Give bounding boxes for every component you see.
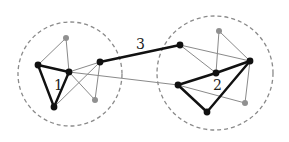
black-node: [66, 69, 73, 76]
strong-edge: [178, 73, 216, 85]
black-node: [97, 59, 104, 66]
black-node: [175, 82, 182, 89]
labels: 1 2 3: [54, 36, 222, 93]
weak-edge: [66, 38, 69, 72]
weak-edge: [69, 72, 178, 85]
gray-node: [242, 100, 248, 106]
weak-edge: [38, 38, 66, 65]
gray-node: [63, 35, 69, 41]
weak-edge: [216, 31, 219, 73]
black-node: [204, 109, 211, 116]
strong-edge: [38, 65, 54, 107]
weak-edge: [95, 62, 100, 100]
network-diagram: 1 2 3: [0, 0, 289, 142]
black-node: [177, 42, 184, 49]
strong-edge: [38, 65, 69, 72]
network-graph-svg: 1 2 3: [0, 0, 289, 142]
black-node: [213, 70, 220, 77]
gray-node: [92, 97, 98, 103]
weak-edge: [69, 72, 95, 100]
weak-edge: [219, 31, 250, 61]
gray-node: [216, 28, 222, 34]
community-label-1: 1: [54, 77, 63, 93]
black-node: [35, 62, 42, 69]
bridge-label: 3: [136, 36, 145, 52]
black-node: [51, 104, 58, 111]
community-label-2: 2: [213, 77, 222, 93]
black-node: [247, 58, 254, 65]
community-boundaries: [18, 16, 273, 130]
